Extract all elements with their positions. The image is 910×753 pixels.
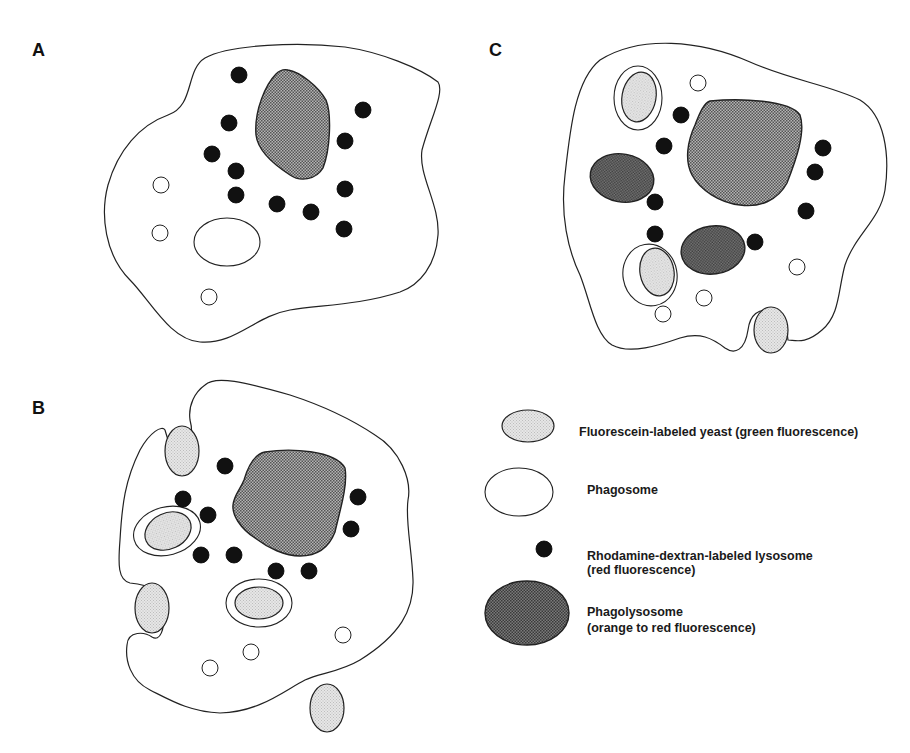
phagolysosome-legend-icon bbox=[485, 581, 569, 645]
vesicle bbox=[153, 177, 169, 193]
lysosome bbox=[337, 133, 353, 149]
vesicle bbox=[696, 290, 712, 306]
lysosome bbox=[355, 102, 371, 118]
lysosome bbox=[343, 521, 359, 537]
panel-b-label: B bbox=[32, 398, 45, 418]
lysosome bbox=[647, 226, 663, 242]
lysosome bbox=[268, 563, 284, 579]
legend-item-yeast: Fluorescein-labeled yeast (green fluores… bbox=[502, 410, 858, 442]
lysosome bbox=[303, 204, 319, 220]
panel-c-label: C bbox=[489, 40, 502, 60]
legend-item-phagolysosome: Phagolysosome (orange to red fluorescenc… bbox=[485, 581, 756, 645]
vesicle bbox=[655, 306, 671, 322]
phagosome-legend-icon bbox=[485, 468, 553, 516]
lysosome bbox=[301, 563, 317, 579]
lysosome bbox=[228, 187, 244, 203]
empty-phagosome-a bbox=[194, 218, 260, 266]
legend-label-lysosome-sub: (red fluorescence) bbox=[587, 563, 695, 577]
lysosome bbox=[269, 196, 285, 212]
panel-a-label: A bbox=[32, 40, 45, 60]
legend: Fluorescein-labeled yeast (green fluores… bbox=[485, 410, 858, 645]
lysosome bbox=[228, 163, 244, 179]
lysosome bbox=[231, 67, 247, 83]
legend-label-lysosome: Rhodamine-dextran-labeled lysosome bbox=[587, 549, 813, 563]
legend-item-lysosome: Rhodamine-dextran-labeled lysosome (red … bbox=[536, 541, 813, 577]
lysosome bbox=[656, 138, 672, 154]
lysosome-legend-icon bbox=[536, 541, 552, 557]
protruding-yeast bbox=[754, 307, 788, 353]
lysosome bbox=[350, 489, 366, 505]
vesicle bbox=[789, 259, 805, 275]
lysosome bbox=[815, 140, 831, 156]
lysosome bbox=[175, 491, 191, 507]
legend-label-yeast: Fluorescein-labeled yeast (green fluores… bbox=[579, 425, 858, 439]
panel-b: B bbox=[32, 380, 413, 732]
lysosome bbox=[337, 181, 353, 197]
legend-label-phagolysosome: Phagolysosome bbox=[587, 605, 683, 619]
lysosome bbox=[193, 547, 209, 563]
legend-item-phagosome: Phagosome bbox=[485, 468, 658, 516]
protruding-yeast bbox=[310, 684, 344, 732]
lysosome bbox=[798, 203, 814, 219]
panel-c: C bbox=[489, 40, 887, 353]
yeast-binding bbox=[135, 583, 169, 633]
lysosome bbox=[204, 146, 220, 162]
legend-label-phagolysosome-sub: (orange to red fluorescence) bbox=[587, 621, 756, 635]
phagocytosis-diagram: A C bbox=[0, 0, 910, 753]
legend-label-phagosome: Phagosome bbox=[587, 483, 658, 497]
vesicle bbox=[201, 289, 217, 305]
panel-a: A bbox=[32, 40, 440, 342]
lysosome bbox=[226, 547, 242, 563]
vesicle bbox=[335, 627, 351, 643]
vesicle bbox=[152, 225, 168, 241]
vesicle bbox=[690, 75, 706, 91]
lysosome bbox=[673, 107, 689, 123]
lysosome bbox=[217, 458, 233, 474]
lysosome bbox=[336, 221, 352, 237]
yeast-binding bbox=[165, 426, 199, 476]
yeast-legend-icon bbox=[502, 410, 554, 442]
lysosome bbox=[747, 234, 763, 250]
lysosome bbox=[221, 115, 237, 131]
lysosome bbox=[200, 507, 216, 523]
vesicle bbox=[243, 644, 259, 660]
lysosome bbox=[647, 194, 663, 210]
yeast bbox=[235, 587, 283, 619]
lysosome bbox=[807, 164, 823, 180]
vesicle bbox=[202, 660, 218, 676]
